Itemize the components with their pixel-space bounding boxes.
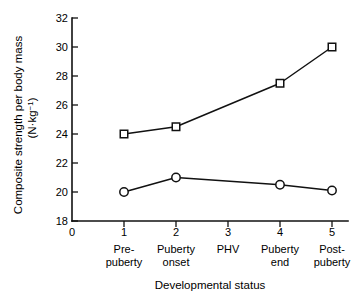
category-label-pre-puberty-line1: Pre- (114, 243, 135, 255)
data-point-marker (276, 80, 284, 88)
category-label-puberty-onset-line1: Puberty (157, 243, 195, 255)
data-point-marker (276, 181, 284, 189)
y-axis-units: (N·kg−1) (26, 97, 38, 138)
y-tick-label-28: 28 (56, 70, 68, 82)
category-label-puberty-onset-line2: onset (163, 256, 190, 268)
category-label-puberty-end-line1: Puberty (261, 243, 299, 255)
category-label-puberty-end-line2: end (271, 256, 289, 268)
x-axis-ticks: 0 1 2 3 4 5 (69, 221, 335, 238)
series-circles-line (124, 178, 332, 193)
y-axis-title: Composite strength per body mass (12, 36, 24, 215)
y-tick-label-26: 26 (56, 99, 68, 111)
data-point-marker (172, 173, 180, 181)
chart-figure: Composite strength per body mass (N·kg−1… (0, 0, 356, 297)
x-tick-label-4: 4 (277, 226, 283, 238)
y-tick-label-32: 32 (56, 12, 68, 24)
series-squares (120, 43, 336, 138)
data-point-marker (328, 186, 336, 194)
category-label-post-puberty-line2: puberty (314, 256, 351, 268)
x-axis-title: Developmental status (155, 279, 266, 291)
x-tick-label-2: 2 (173, 226, 179, 238)
y-tick-label-18: 18 (56, 215, 68, 227)
series-circles (120, 173, 336, 196)
y-tick-label-30: 30 (56, 41, 68, 53)
data-point-marker (120, 130, 128, 138)
category-label-post-puberty-line1: Post- (319, 243, 345, 255)
data-point-marker (120, 188, 128, 196)
x-tick-label-1: 1 (121, 226, 127, 238)
x-tick-label-3: 3 (225, 226, 231, 238)
series-squares-line (124, 47, 332, 134)
y-tick-label-22: 22 (56, 157, 68, 169)
x-tick-label-5: 5 (329, 226, 335, 238)
y-axis-units-base: (N·kg (26, 110, 38, 138)
series-squares-markers (120, 43, 336, 138)
line-chart: Composite strength per body mass (N·kg−1… (0, 0, 356, 297)
y-axis-ticks: 18 20 22 24 26 28 30 32 (56, 12, 78, 227)
data-point-marker (172, 123, 180, 131)
y-tick-label-20: 20 (56, 186, 68, 198)
data-point-marker (328, 43, 336, 51)
x-category-labels: Pre- puberty Puberty onset PHV Puberty e… (106, 243, 351, 268)
category-label-phv-line1: PHV (217, 243, 240, 255)
x-tick-label-0: 0 (69, 226, 75, 238)
y-axis-units-close: ) (26, 97, 38, 101)
y-tick-label-24: 24 (56, 128, 68, 140)
category-label-pre-puberty-line2: puberty (106, 256, 143, 268)
